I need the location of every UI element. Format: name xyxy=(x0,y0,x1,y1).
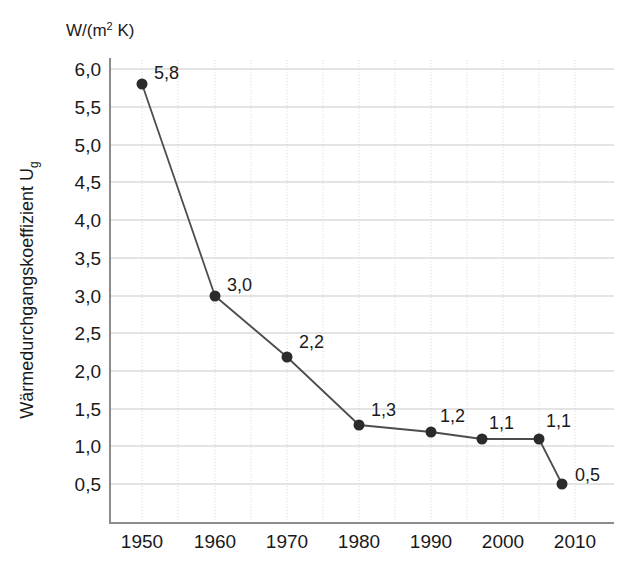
data-label-1950: 5,8 xyxy=(154,63,179,83)
x-tick-label-1980: 1980 xyxy=(338,531,380,552)
data-point-2005[interactable] xyxy=(534,434,545,445)
y-tick-label-0.5: 0,5 xyxy=(75,474,101,495)
x-gridlines xyxy=(142,60,575,523)
x-tick-label-1990: 1990 xyxy=(410,531,452,552)
y-tick-label-2.0: 2,0 xyxy=(75,361,101,382)
axis-spines xyxy=(110,58,614,523)
data-point-1970[interactable] xyxy=(282,352,293,363)
chart-page: W/(m2 K) Wärmedurchgangskoeffizient Ug 6… xyxy=(0,0,626,576)
data-point-labels: 5,8 3,0 2,2 1,3 1,2 1,1 1,1 0,5 xyxy=(154,63,600,485)
data-label-1997: 1,1 xyxy=(489,413,514,433)
y-tick-label-4.5: 4,5 xyxy=(75,172,101,193)
line-chart: W/(m2 K) Wärmedurchgangskoeffizient Ug 6… xyxy=(0,0,626,576)
y-axis-title-main: Wärmedurchgangskoeffizient U xyxy=(17,168,37,419)
data-point-1990[interactable] xyxy=(426,427,437,438)
y-tick-label-5.5: 5,5 xyxy=(75,97,101,118)
x-tick-label-1960: 1960 xyxy=(194,531,236,552)
data-label-1980: 1,3 xyxy=(371,400,396,420)
y-tick-labels: 6,0 5,5 5,0 4,5 4,0 3,5 3,0 2,5 2,0 1,5 … xyxy=(75,59,101,495)
y-tick-label-2.5: 2,5 xyxy=(75,323,101,344)
data-label-2005: 1,1 xyxy=(546,411,571,431)
data-label-1960: 3,0 xyxy=(227,275,252,295)
unit-label-tail: K) xyxy=(113,21,135,40)
y-tick-label-3.5: 3,5 xyxy=(75,248,101,269)
data-point-1950[interactable] xyxy=(137,79,148,90)
x-tick-label-2010: 2010 xyxy=(554,531,596,552)
data-point-1997[interactable] xyxy=(477,434,488,445)
x-tick-labels: 1950 1960 1970 1980 1990 2000 2010 xyxy=(121,531,596,552)
unit-label: W/(m2 K) xyxy=(66,20,134,40)
y-axis-title: Wärmedurchgangskoeffizient Ug xyxy=(17,161,41,418)
y-tick-label-5.0: 5,0 xyxy=(75,135,101,156)
unit-label-main: W/(m xyxy=(66,21,107,40)
x-tick-label-2000: 2000 xyxy=(482,531,524,552)
y-tick-label-1.0: 1,0 xyxy=(75,436,101,457)
y-tick-label-3.0: 3,0 xyxy=(75,286,101,307)
y-axis-title-subscript: g xyxy=(27,161,41,168)
data-point-1960[interactable] xyxy=(210,291,221,302)
data-label-2008: 0,5 xyxy=(575,465,600,485)
data-point-2008[interactable] xyxy=(557,479,568,490)
y-tick-label-4.0: 4,0 xyxy=(75,210,101,231)
data-label-1990: 1,2 xyxy=(440,406,465,426)
data-point-1980[interactable] xyxy=(354,420,365,431)
x-tick-label-1950: 1950 xyxy=(121,531,163,552)
y-tick-label-6.0: 6,0 xyxy=(75,59,101,80)
y-tick-label-1.5: 1,5 xyxy=(75,399,101,420)
x-tick-label-1970: 1970 xyxy=(266,531,308,552)
data-label-1970: 2,2 xyxy=(299,332,324,352)
